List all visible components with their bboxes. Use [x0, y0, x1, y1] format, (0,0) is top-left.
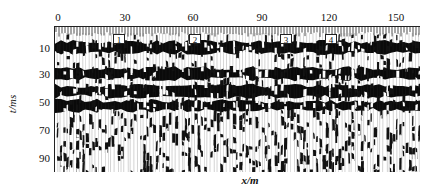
seismic-traces — [55, 27, 420, 172]
marker-2: 2 — [189, 34, 201, 44]
y-tick-label: 50 — [30, 96, 50, 108]
x-tick-label: 90 — [257, 11, 268, 23]
y-axis-label: t/ms — [6, 95, 18, 113]
y-tick-label: 30 — [30, 68, 50, 80]
seismic-plot-area: 1 2 3 4 — [54, 26, 420, 172]
x-tick-label: 150 — [388, 11, 405, 23]
x-tick-label: 30 — [120, 11, 131, 23]
x-tick-label: 120 — [321, 11, 338, 23]
x-tick-label: 0 — [55, 11, 61, 23]
marker-1: 1 — [113, 34, 125, 44]
seismic-section-figure: 0 30 60 90 120 150 10 30 50 70 90 t/ms x… — [0, 0, 440, 191]
y-tick-label: 90 — [30, 152, 50, 164]
marker-4: 4 — [325, 34, 337, 44]
marker-3: 3 — [280, 34, 292, 44]
x-axis-label: x/m — [241, 174, 258, 186]
y-tick-label: 70 — [30, 124, 50, 136]
x-tick-label: 60 — [188, 11, 199, 23]
y-tick-label: 10 — [30, 42, 50, 54]
